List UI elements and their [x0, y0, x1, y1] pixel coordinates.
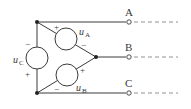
- uc-plus-sign: +: [25, 69, 30, 79]
- uc-label-sub: C: [19, 59, 24, 67]
- sources: [26, 28, 78, 86]
- terminal-a-icon: [127, 20, 131, 24]
- uc-label-main: u: [13, 54, 18, 65]
- ua-label-main: u: [79, 26, 84, 37]
- ub-minus-sign: −: [54, 84, 59, 94]
- ua-plus-sign: +: [54, 22, 59, 32]
- terminal-b-icon: [127, 55, 131, 59]
- node-right: [94, 55, 98, 59]
- node-bottom-left: [35, 91, 39, 95]
- delta-circuit-diagram: A B C u A + − u C − + u B + −: [0, 0, 191, 109]
- node-top-left: [35, 20, 39, 24]
- ub-plus-sign: +: [80, 65, 85, 75]
- source-uc-icon: [26, 47, 48, 69]
- dashed-lines: [134, 22, 178, 93]
- ub-label-main: u: [76, 82, 81, 93]
- ua-label-sub: A: [85, 31, 90, 39]
- terminal-c-label: C: [125, 77, 132, 89]
- ua-minus-sign: −: [81, 40, 86, 50]
- uc-minus-sign: −: [25, 39, 30, 49]
- source-ub-icon: [56, 64, 78, 86]
- terminal-a-label: A: [125, 6, 133, 18]
- terminal-c-icon: [127, 91, 131, 95]
- terminal-b-label: B: [125, 41, 132, 53]
- ub-label-sub: B: [82, 87, 87, 95]
